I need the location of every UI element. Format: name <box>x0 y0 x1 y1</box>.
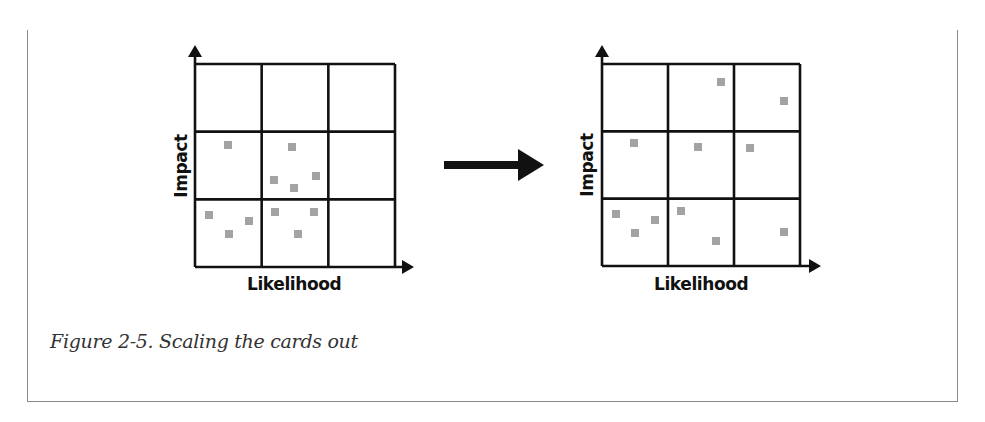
right-arrow-icon <box>0 0 985 300</box>
figure-caption: Figure 2-5. Scaling the cards out <box>50 330 358 352</box>
